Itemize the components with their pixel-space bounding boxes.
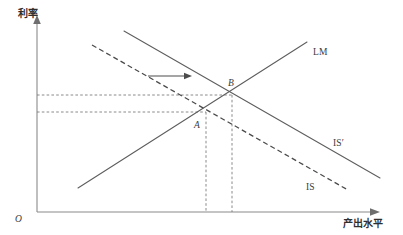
rightward-shift-arrow	[148, 73, 192, 79]
lm-curve-label: LM	[313, 47, 328, 57]
shift-arrow-head-icon	[184, 73, 192, 79]
is-curve	[92, 45, 348, 190]
x-axis-label: 产出水平	[343, 217, 383, 229]
is-prime-curve-label: IS′	[333, 138, 344, 148]
equilibrium-point-a-label: A	[193, 120, 200, 130]
islm-diagram-canvas: LM IS′ IS B A O 利率 产出水平	[0, 0, 403, 235]
is-curve-label: IS	[306, 182, 315, 192]
y-axis-label: 利率	[18, 7, 38, 19]
guide-lines-group	[37, 95, 232, 212]
axes-group	[33, 15, 380, 216]
equilibrium-point-b-label: B	[228, 78, 234, 88]
curves-group	[78, 31, 380, 190]
lm-curve	[78, 42, 307, 188]
is-prime-curve	[124, 31, 380, 178]
labels-group: LM IS′ IS B A O 利率 产出水平	[15, 7, 383, 229]
islm-figure: LM IS′ IS B A O 利率 产出水平	[0, 0, 403, 235]
x-axis-arrowhead-icon	[370, 208, 380, 216]
origin-label: O	[15, 214, 22, 224]
